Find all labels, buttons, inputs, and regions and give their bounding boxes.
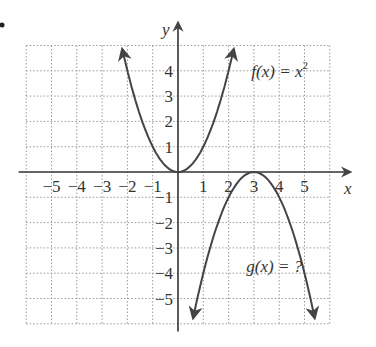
g-function-label: g(x) = ? bbox=[246, 257, 302, 276]
svg-text:1: 1 bbox=[165, 138, 174, 157]
svg-text:−5: −5 bbox=[42, 177, 60, 196]
f-function-label: f(x) = x2 bbox=[251, 59, 308, 81]
bullet-marker bbox=[0, 23, 5, 28]
svg-text:−2: −2 bbox=[118, 177, 136, 196]
x-axis-label: x bbox=[343, 179, 352, 198]
svg-text:−3: −3 bbox=[155, 239, 173, 258]
svg-text:−4: −4 bbox=[68, 177, 87, 196]
y-axis-label: y bbox=[160, 20, 170, 39]
svg-text:−1: −1 bbox=[155, 188, 173, 207]
svg-text:2: 2 bbox=[165, 112, 174, 131]
svg-text:3: 3 bbox=[250, 177, 259, 196]
graph: −5−4−3−2−1123454321−1−2−3−4−5 x y f(x) =… bbox=[0, 0, 376, 347]
svg-text:−2: −2 bbox=[155, 214, 173, 233]
svg-text:−4: −4 bbox=[155, 264, 174, 283]
svg-text:3: 3 bbox=[165, 87, 174, 106]
svg-text:−3: −3 bbox=[93, 177, 111, 196]
svg-text:1: 1 bbox=[199, 177, 208, 196]
svg-text:4: 4 bbox=[165, 62, 174, 81]
svg-text:5: 5 bbox=[300, 177, 309, 196]
svg-text:−5: −5 bbox=[155, 290, 173, 309]
